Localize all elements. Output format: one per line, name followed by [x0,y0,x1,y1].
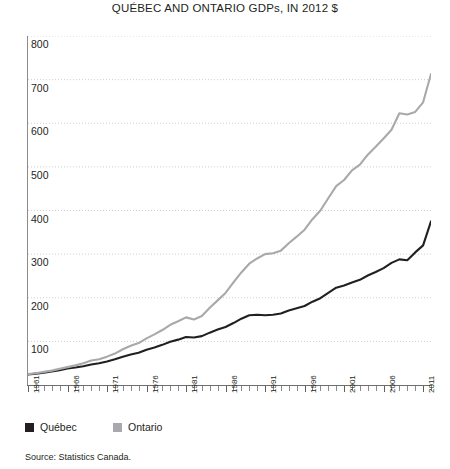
x-axis-tick [178,386,179,391]
x-axis-tick [336,386,337,391]
x-axis-tick-label: 1996 [309,375,318,393]
x-axis-tick-label: 2011 [427,376,436,393]
x-axis-tick [83,386,84,391]
gridlines [28,36,431,341]
x-axis-tick [123,386,124,391]
legend-label: Québec [40,421,77,433]
x-axis-tick [68,386,69,392]
gdp-line-chart-figure: QUÉBEC AND ONTARIO GDPs, IN 2012 $ 80070… [0,0,450,469]
legend-swatch-icon [113,423,122,432]
x-axis-tick-label: 2001 [348,375,357,393]
legend-label: Ontario [128,421,162,433]
x-axis-tick [99,386,100,391]
source-note: Source: Statistics Canada. [25,452,131,462]
x-axis-tick [60,386,61,391]
x-axis-tick [297,386,298,391]
x-axis-tick [376,386,377,391]
legend-swatch-icon [25,423,34,432]
x-axis-tick-label: 1966 [72,375,81,393]
x-axis-tick [28,386,29,392]
y-axis-tick-label: 700 [31,83,49,94]
x-axis-tick-label: 2006 [388,375,397,393]
x-axis-tick [328,386,329,391]
plot-svg [28,36,431,385]
x-axis-tick [344,386,345,392]
y-axis-tick-label: 500 [31,170,49,181]
x-axis-tick [162,386,163,391]
series-paths [28,74,431,375]
x-axis-tick [415,386,416,391]
x-axis-tick [218,386,219,391]
x-axis-tick [147,386,148,392]
x-axis-tick [44,386,45,391]
x-axis-tick [305,386,306,392]
x-axis-tick [52,386,53,391]
x-axis-tick [423,386,424,392]
x-axis-tick-label: 1971 [111,375,120,393]
legend-item-québec[interactable]: Québec [25,421,77,433]
x-axis-tick [320,386,321,391]
chart-title: QUÉBEC AND ONTARIO GDPs, IN 2012 $ [0,2,450,14]
x-axis-tick-label: 1986 [230,375,239,393]
plot-area [28,36,431,385]
x-axis-tick [289,386,290,391]
x-axis-tick [384,386,385,392]
x-axis-tick [281,386,282,391]
x-axis-tick [265,386,266,392]
y-axis-tick-label: 100 [31,344,49,355]
x-axis-tick [257,386,258,391]
x-axis-tick [91,386,92,391]
x-axis-tick [360,386,361,391]
x-axis-tick [226,386,227,392]
y-axis-tick-label: 400 [31,214,49,225]
y-axis-tick-label: 200 [31,301,49,312]
x-axis-tick-label: 1976 [151,375,160,393]
x-axis-tick [202,386,203,391]
x-axis-tick [186,386,187,392]
y-axis-tick-label: 800 [31,39,49,50]
x-axis-tick [131,386,132,391]
x-axis-tick [107,386,108,392]
x-axis-tick [170,386,171,391]
x-axis-tick [368,386,369,391]
x-axis-tick [241,386,242,391]
y-axis-tick-label: 300 [31,257,49,268]
series-line-ontario [28,74,431,374]
x-axis-tick [407,386,408,391]
x-axis-tick [399,386,400,391]
legend-item-ontario[interactable]: Ontario [113,421,162,433]
x-axis-tick-label: 1961 [32,375,41,393]
x-axis-tick [210,386,211,391]
x-axis-tick-label: 1991 [269,375,278,393]
y-axis-tick-label: 600 [31,126,49,137]
x-axis-tick [139,386,140,391]
x-axis-tick-label: 1981 [190,375,199,393]
x-axis-tick [249,386,250,391]
